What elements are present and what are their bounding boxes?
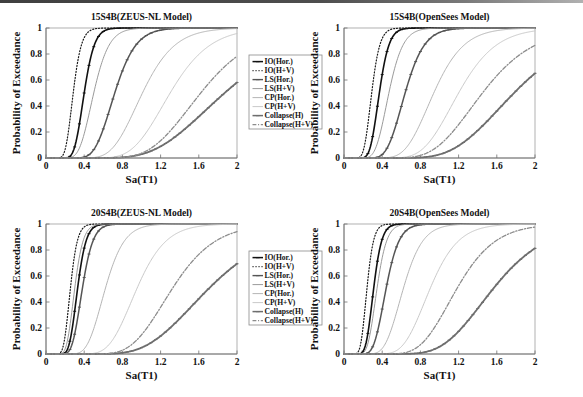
panel-title: 15S4B(ZEUS-NL Model) [91,12,192,23]
y-tick-label: 0.6 [30,75,42,85]
x-tick-label: 0.8 [414,161,426,171]
curve-group [46,224,239,354]
legend-label[interactable]: IO(H+V) [265,66,295,75]
x-tick-label: 2 [235,161,240,171]
panel-title: 20S4B(ZEUS-NL Model) [91,208,192,219]
x-axis-title: Sa(T1) [126,173,158,186]
y-tick-label: 0.2 [30,323,42,333]
y-tick-label: 1 [335,23,340,33]
x-axis-ticks: 00.40.81.21.62 [44,351,240,368]
x-axis-title: Sa(T1) [424,369,456,382]
x-tick-label: 0.8 [116,357,128,367]
plot-panel-panel-bottom-right: 20S4B(OpenSees Model)00.40.81.21.6200.20… [308,208,538,382]
x-tick-label: 1.2 [155,357,167,367]
plot-panel-panel-top-right: 15S4B(OpenSees Model)00.40.81.21.6200.20… [308,12,538,186]
y-axis-ticks: 00.20.40.60.81 [328,219,347,359]
x-tick-label: 0.8 [116,161,128,171]
x-tick-label: 0 [44,357,49,367]
legend-label[interactable]: Collapse(H) [265,307,304,316]
panel-title: 20S4B(OpenSees Model) [389,208,489,219]
x-axis-title: Sa(T1) [424,173,456,186]
x-tick-label: 0.4 [78,161,90,171]
y-axis-ticks: 00.20.40.60.81 [328,23,347,163]
legend-label[interactable]: LS(Hor.) [265,75,294,84]
x-tick-label: 1.6 [491,357,503,367]
x-tick-label: 2 [235,357,240,367]
y-tick-label: 0 [37,349,42,359]
markers-collapse-h- [414,248,536,353]
y-tick-label: 0.4 [328,297,340,307]
y-tick-label: 0.8 [30,49,42,59]
x-tick-label: 0 [342,357,347,367]
x-tick-label: 0 [44,161,49,171]
plot-panel-panel-bottom-left: 20S4B(ZEUS-NL Model)00.40.81.21.6200.20.… [10,208,240,382]
legend-label[interactable]: IO(Hor.) [265,253,294,262]
y-tick-label: 0.2 [328,323,340,333]
x-tick-label: 0.4 [376,357,388,367]
y-tick-label: 1 [37,219,42,229]
y-tick-label: 0.8 [328,49,340,59]
y-tick-label: 0.4 [30,297,42,307]
plot-panel-panel-top-left: 15S4B(ZEUS-NL Model)00.40.81.21.6200.20.… [10,12,240,186]
y-tick-label: 0 [37,153,42,163]
y-tick-label: 0.6 [30,271,42,281]
markers-ls-hor- [366,224,426,352]
legend-label[interactable]: LS(H+V) [265,84,296,93]
x-tick-label: 1.2 [155,161,167,171]
x-tick-label: 0.8 [414,357,426,367]
x-tick-label: 0.4 [376,161,388,171]
x-tick-label: 2 [533,357,538,367]
legend-label[interactable]: Collapse(H+V) [265,316,314,325]
legend-label[interactable]: CP(Hor.) [265,289,295,298]
x-axis-ticks: 00.40.81.21.62 [342,155,538,172]
x-axis-ticks: 00.40.81.21.62 [342,351,538,368]
markers-ls-hor- [83,28,182,157]
curve-group [344,224,537,354]
panel-title: 15S4B(OpenSees Model) [389,12,489,23]
legend-label[interactable]: IO(Hor.) [265,57,294,66]
markers-io-hor- [362,224,398,351]
y-tick-label: 0.6 [328,271,340,281]
x-tick-label: 1.2 [453,357,465,367]
y-axis-ticks: 00.20.40.60.81 [30,23,49,163]
legend-label[interactable]: CP(H+V) [265,102,296,111]
y-axis-title: Probability of Exceedance [10,228,22,351]
y-tick-label: 0.6 [328,75,340,85]
legend-label[interactable]: CP(Hor.) [265,93,295,102]
legend-label[interactable]: LS(H+V) [265,280,296,289]
x-tick-label: 2 [533,161,538,171]
markers-io-hor- [64,224,105,352]
curve-group [344,28,537,158]
y-tick-label: 0.4 [328,101,340,111]
legend-label[interactable]: Collapse(H) [265,111,304,120]
y-tick-label: 0.4 [30,101,42,111]
x-tick-label: 1.6 [193,161,205,171]
y-axis-title: Probability of Exceedance [308,228,320,351]
x-tick-label: 1.6 [491,161,503,171]
x-tick-label: 1.2 [453,161,465,171]
legend-label[interactable]: CP(H+V) [265,298,296,307]
y-axis-title: Probability of Exceedance [10,32,22,155]
curve-group [46,28,239,158]
legend-label[interactable]: Collapse(H+V) [265,120,314,129]
x-tick-label: 0 [342,161,347,171]
y-tick-label: 1 [335,219,340,229]
y-tick-label: 0.2 [30,127,42,137]
legend-label[interactable]: IO(H+V) [265,262,295,271]
y-tick-label: 1 [37,23,42,33]
x-axis-title: Sa(T1) [126,369,158,382]
y-tick-label: 0.8 [30,245,42,255]
y-tick-label: 0 [335,153,340,163]
y-tick-label: 0.2 [328,127,340,137]
y-axis-title: Probability of Exceedance [308,32,320,155]
legend-label[interactable]: LS(Hor.) [265,271,294,280]
x-tick-label: 0.4 [78,357,90,367]
y-tick-label: 0.8 [328,245,340,255]
y-tick-label: 0 [335,349,340,359]
curve-io-hor- [344,28,535,158]
x-tick-label: 1.6 [193,357,205,367]
fragility-curves-figure: 15S4B(ZEUS-NL Model)00.40.81.21.6200.20.… [0,0,583,397]
curve-io-h-v- [344,224,535,354]
y-axis-ticks: 00.20.40.60.81 [30,219,49,359]
